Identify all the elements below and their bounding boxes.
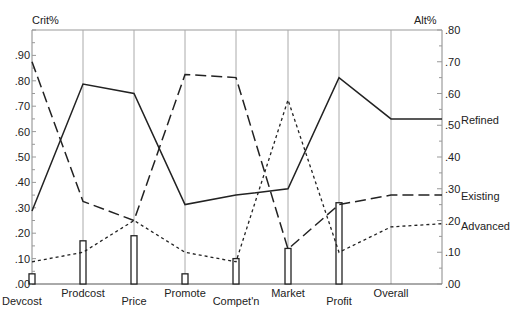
series-lines <box>32 62 442 262</box>
series-line-existing <box>32 62 442 249</box>
right-tick-label: .80 <box>445 24 460 36</box>
bar <box>336 203 342 284</box>
left-tick-label: .60 <box>15 126 30 138</box>
right-tick-label: .10 <box>445 246 460 258</box>
right-tick-label: .30 <box>445 183 460 195</box>
right-tick-label: .00 <box>445 278 460 290</box>
left-tick-label: .90 <box>15 49 30 61</box>
grid <box>32 30 442 284</box>
category-label: Devcost <box>2 295 42 307</box>
right-tick-label: .20 <box>445 215 460 227</box>
right-tick-label: .70 <box>445 56 460 68</box>
bar <box>131 236 137 284</box>
chart: Crit% Alt% Refined Existing Advanced .00… <box>0 0 518 318</box>
bar <box>182 274 188 284</box>
left-tick-label: .80 <box>15 75 30 87</box>
category-label: Price <box>121 295 146 307</box>
series-line-refined <box>32 78 442 211</box>
category-label: Overall <box>374 287 409 299</box>
left-tick-label: .00 <box>15 278 30 290</box>
right-axis-title: Alt% <box>414 14 437 26</box>
left-tick-label: .40 <box>15 176 30 188</box>
category-label: Promote <box>164 287 206 299</box>
axes <box>32 30 442 284</box>
right-tick-label: .40 <box>445 151 460 163</box>
right-tick-label: .50 <box>445 119 460 131</box>
labels: Crit% Alt% Refined Existing Advanced .00… <box>2 14 510 307</box>
series-label-refined: Refined <box>461 114 499 126</box>
series-label-existing: Existing <box>461 190 500 202</box>
category-label: Prodcost <box>61 287 104 299</box>
category-label: Compet'n <box>213 295 260 307</box>
series-line-advanced <box>32 100 442 262</box>
left-tick-label: .30 <box>15 202 30 214</box>
left-tick-label: .20 <box>15 227 30 239</box>
series-label-advanced: Advanced <box>461 220 510 232</box>
bar <box>285 248 291 284</box>
left-tick-label: .10 <box>15 253 30 265</box>
category-label: Market <box>271 287 305 299</box>
left-tick-label: .70 <box>15 100 30 112</box>
left-tick-label: .50 <box>15 151 30 163</box>
right-tick-label: .60 <box>445 88 460 100</box>
category-label: Profit <box>326 295 352 307</box>
bar <box>80 241 86 284</box>
left-axis-title: Crit% <box>32 14 59 26</box>
